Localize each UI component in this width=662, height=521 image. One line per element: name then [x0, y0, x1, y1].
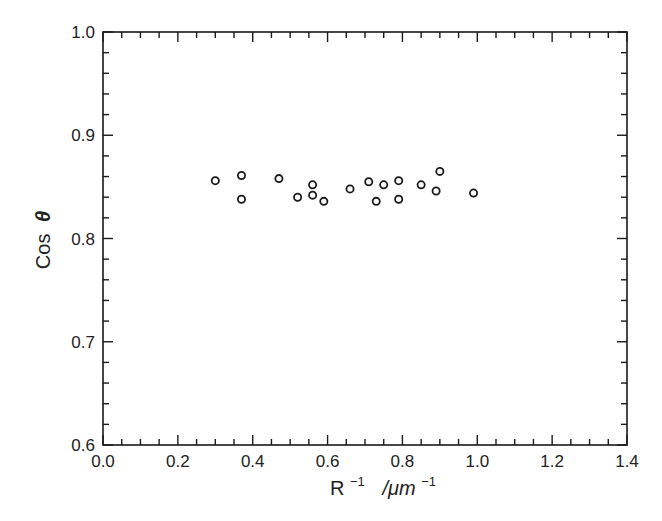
- data-point: [395, 196, 402, 203]
- x-tick-label: 0.2: [166, 452, 190, 471]
- data-point: [436, 168, 443, 175]
- data-point: [294, 194, 301, 201]
- x-tick-label: 0.8: [391, 452, 415, 471]
- x-tick-label: 0.4: [241, 452, 265, 471]
- data-point: [470, 189, 477, 196]
- data-point: [418, 181, 425, 188]
- x-axis-label: R −1 /μm −1: [330, 468, 436, 499]
- x-tick-label: 1.0: [465, 452, 489, 471]
- x-tick-label: 1.2: [540, 452, 564, 471]
- scatter-chart: 0.00.20.40.60.81.01.21.4 0.60.70.80.91.0…: [0, 0, 662, 521]
- data-point: [395, 177, 402, 184]
- data-point: [238, 196, 245, 203]
- data-point: [275, 175, 282, 182]
- x-axis-label-sup2: −1: [421, 474, 436, 489]
- x-tick-label: 0.6: [316, 452, 340, 471]
- data-point: [433, 187, 440, 194]
- y-tick-labels: 0.60.70.80.91.0: [71, 23, 95, 455]
- data-point: [212, 177, 219, 184]
- y-tick-label: 0.6: [71, 436, 95, 455]
- data-points: [212, 168, 477, 205]
- data-point: [320, 198, 327, 205]
- x-axis-label-sup1: −1: [350, 474, 365, 489]
- x-axis-label-unit: /μm: [380, 477, 415, 499]
- x-tick-label: 1.4: [615, 452, 639, 471]
- axis-ticks: [103, 32, 627, 445]
- x-axis-label-base: R: [330, 477, 344, 499]
- y-tick-label: 0.7: [71, 333, 95, 352]
- y-tick-label: 0.8: [71, 230, 95, 249]
- data-point: [365, 178, 372, 185]
- data-point: [238, 172, 245, 179]
- y-axis-label-text: Cos: [32, 234, 54, 270]
- y-axis-label-theta: θ: [32, 211, 54, 222]
- data-point: [309, 181, 316, 188]
- y-axis-label: Cos θ: [32, 211, 54, 269]
- data-point: [346, 185, 353, 192]
- data-point: [309, 192, 316, 199]
- data-point: [380, 181, 387, 188]
- y-tick-label: 0.9: [71, 126, 95, 145]
- data-point: [373, 198, 380, 205]
- plot-frame: [103, 32, 627, 445]
- y-tick-label: 1.0: [71, 23, 95, 42]
